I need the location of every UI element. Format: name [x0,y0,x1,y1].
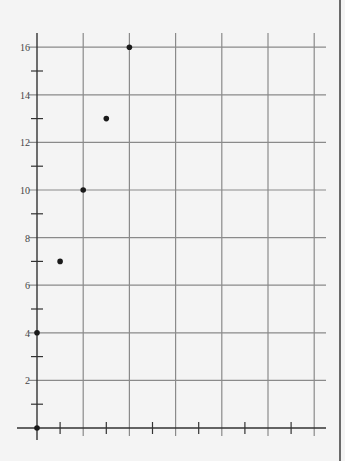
gridlines [29,33,326,436]
y-tick-label: 14 [20,90,30,101]
chart-canvas: 246810121416 [0,0,345,461]
y-tick-label: 16 [20,42,30,53]
y-tick-label: 10 [20,185,30,196]
data-point [104,116,110,122]
data-point [34,330,40,336]
y-tick-label: 6 [25,280,30,291]
y-tick-labels: 246810121416 [20,42,30,386]
data-point [34,425,40,431]
y-tick-label: 4 [25,328,30,339]
y-tick-label: 2 [25,375,30,386]
page-border [339,0,341,461]
scatter-chart: 246810121416 [0,0,345,461]
data-point [80,187,86,193]
y-tick-label: 8 [25,233,30,244]
data-point [57,259,63,265]
tick-marks [31,71,291,434]
data-point [127,44,133,50]
axes [17,33,326,440]
y-tick-label: 12 [20,137,30,148]
